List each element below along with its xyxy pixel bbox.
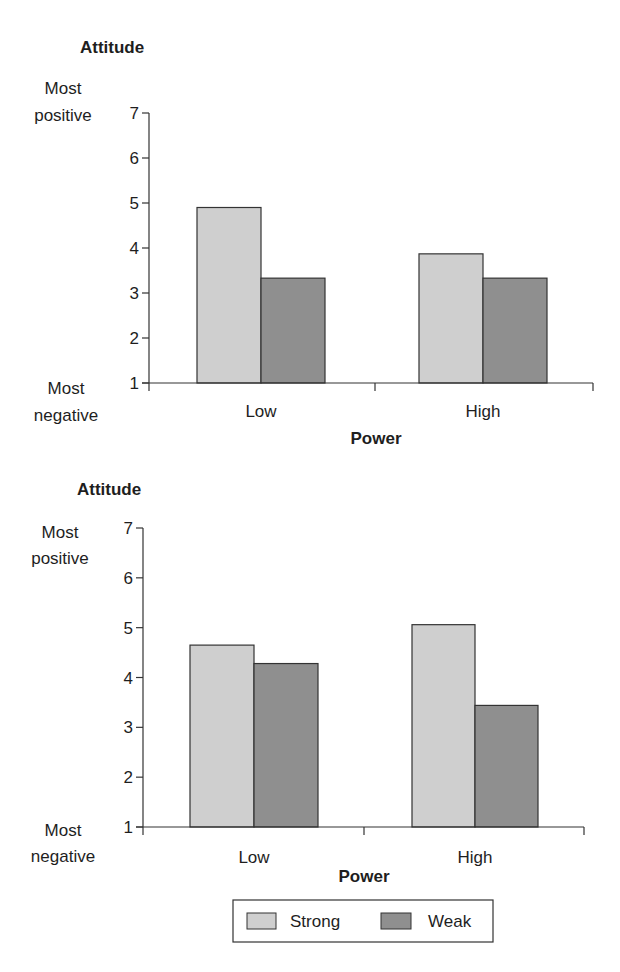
chart-top-y-bottom-anchor-line2: negative — [34, 406, 98, 425]
chart-bottom-title: Attitude — [77, 480, 141, 499]
y-tick-label-5: 5 — [130, 194, 139, 213]
chart-bottom: Attitude Most positive Most negative Pow… — [31, 480, 584, 886]
y-tick-label-2: 2 — [130, 329, 139, 348]
bar-weak-low — [261, 278, 325, 383]
bar-strong-low — [197, 208, 261, 384]
bar-weak-high — [483, 278, 547, 383]
chart-top-y-top-anchor-line1: Most — [45, 79, 82, 98]
y-tick-label-6: 6 — [130, 149, 139, 168]
y-tick-label-2: 2 — [124, 768, 133, 787]
y-tick-label-6: 6 — [124, 569, 133, 588]
bar-strong-high — [419, 254, 483, 383]
legend: Strong Weak — [233, 900, 493, 942]
chart-bottom-y-bottom-anchor-line2: negative — [31, 847, 95, 866]
chart-bottom-y-bottom-anchor-line1: Most — [45, 821, 82, 840]
y-tick-label-1: 1 — [124, 818, 133, 837]
y-tick-label-3: 3 — [130, 284, 139, 303]
legend-swatch-strong — [247, 913, 276, 929]
y-tick-label-7: 7 — [130, 104, 139, 123]
bar-strong-high — [412, 625, 475, 827]
y-tick-label-7: 7 — [124, 519, 133, 538]
y-tick-label-3: 3 — [124, 718, 133, 737]
chart-top-y-top-anchor-line2: positive — [34, 106, 92, 125]
bar-weak-high — [475, 705, 538, 827]
chart-top-title: Attitude — [80, 38, 144, 57]
y-tick-label-1: 1 — [130, 374, 139, 393]
y-tick-label-4: 4 — [130, 239, 139, 258]
chart-top-x-axis-label: Power — [350, 429, 401, 448]
legend-swatch-weak — [381, 913, 411, 929]
chart-top: Attitude Most positive Most negative Pow… — [34, 38, 593, 448]
chart-bottom-y-top-anchor-line1: Most — [42, 523, 79, 542]
chart-top-y-bottom-anchor-line1: Most — [48, 379, 85, 398]
legend-label-weak: Weak — [428, 912, 472, 931]
y-tick-label-5: 5 — [124, 619, 133, 638]
legend-label-strong: Strong — [290, 912, 340, 931]
chart-bottom-y-top-anchor-line2: positive — [31, 549, 89, 568]
y-tick-label-4: 4 — [124, 669, 133, 688]
bar-weak-low — [254, 664, 318, 827]
x-tick-label-low: Low — [238, 848, 270, 867]
x-tick-label-high: High — [458, 848, 493, 867]
x-tick-label-low: Low — [245, 402, 277, 421]
x-tick-label-high: High — [466, 402, 501, 421]
bar-strong-low — [190, 645, 254, 827]
chart-bottom-x-axis-label: Power — [338, 867, 389, 886]
figure: Attitude Most positive Most negative Pow… — [0, 0, 620, 972]
